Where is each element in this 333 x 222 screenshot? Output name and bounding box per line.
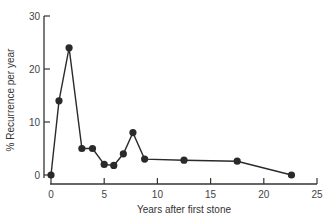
y-tick-label: 0: [34, 170, 40, 181]
x-tick-label: 15: [205, 189, 217, 200]
x-tick-label: 10: [152, 189, 164, 200]
x-axis-title: Years after first stone: [137, 204, 232, 215]
data-point: [129, 129, 136, 136]
plot-area: [47, 44, 295, 178]
data-point: [78, 145, 85, 152]
data-point: [89, 145, 96, 152]
data-point: [141, 156, 148, 163]
series-line: [51, 48, 292, 175]
x-tick-label: 0: [48, 189, 54, 200]
line-chart: 01020300510152025 Years after first ston…: [0, 0, 333, 222]
data-point: [234, 158, 241, 165]
data-point: [180, 157, 187, 164]
data-point: [65, 44, 72, 51]
y-tick-label: 30: [29, 11, 41, 22]
data-point: [288, 171, 295, 178]
data-point: [55, 97, 62, 104]
x-tick-label: 20: [258, 189, 270, 200]
data-point: [101, 161, 108, 168]
y-axis-title: % Recurrence per year: [5, 48, 16, 151]
data-point: [120, 150, 127, 157]
data-point: [47, 171, 54, 178]
x-tick-label: 25: [311, 189, 323, 200]
y-tick-label: 10: [29, 117, 41, 128]
x-tick-label: 5: [101, 189, 107, 200]
y-tick-label: 20: [29, 64, 41, 75]
data-point: [110, 162, 117, 169]
